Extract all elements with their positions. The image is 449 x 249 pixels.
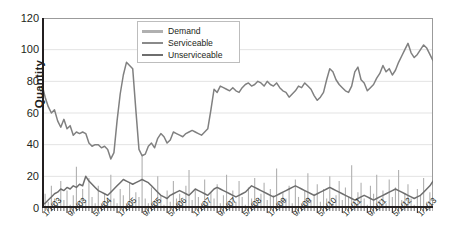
legend-label-serviceable: Serviceable — [168, 37, 213, 49]
legend-item-unserviceable: Unserviceable — [142, 49, 235, 61]
legend-swatch-demand-icon — [142, 30, 163, 33]
chart-legend: Demand Serviceable Unserviceable — [137, 21, 240, 63]
legend-label-demand: Demand — [168, 25, 200, 37]
legend-swatch-unserviceable-icon — [142, 54, 163, 56]
legend-item-demand: Demand — [142, 25, 235, 37]
legend-label-unserviceable: Unserviceable — [168, 49, 222, 61]
y-tick-80: 80 — [1, 76, 39, 87]
y-tick-60: 60 — [1, 108, 39, 119]
y-tick-120: 120 — [1, 13, 39, 24]
x-axis-ticks — [42, 207, 433, 215]
y-tick-20: 20 — [1, 171, 39, 182]
chart-figure: Quantity 020406080100120 1/1/039/1/035/1… — [0, 0, 449, 249]
x-axis-tick-labels: 1/1/039/1/035/1/041/1/059/1/055/1/061/1/… — [0, 210, 449, 249]
legend-item-serviceable: Serviceable — [142, 37, 235, 49]
y-tick-40: 40 — [1, 139, 39, 150]
y-tick-100: 100 — [1, 44, 39, 55]
legend-swatch-serviceable-icon — [142, 42, 163, 44]
